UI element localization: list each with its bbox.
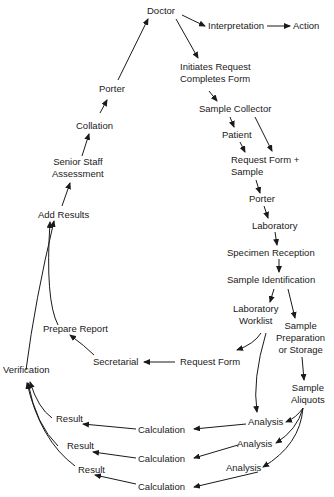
node-initiates-request: Initiates Request Completes Form [180, 61, 251, 85]
node-result-1: Result [56, 413, 83, 425]
node-ssa-line1: Senior Staff [52, 156, 104, 168]
node-lw-line2: Worklist [233, 315, 278, 327]
node-laboratory-worklist: Laboratory Worklist [233, 303, 278, 327]
node-calculation-2: Calculation [138, 453, 185, 465]
node-rfs-line1: Request Form + [231, 154, 299, 166]
node-initiates-line1: Initiates Request [180, 61, 251, 73]
node-ssa-line2: Assessment [52, 168, 104, 180]
node-verification: Verification [3, 364, 49, 376]
node-calculation-1: Calculation [138, 424, 185, 436]
node-porter-right: Porter [249, 193, 275, 205]
node-interpretation: Interpretation [208, 20, 264, 32]
node-sample-identification: Sample Identification [227, 274, 315, 286]
node-initiates-line2: Completes Form [180, 73, 251, 85]
node-prepare-report: Prepare Report [43, 323, 108, 335]
node-sp-line3: or Storage [276, 344, 325, 356]
node-specimen-reception: Specimen Reception [227, 247, 315, 259]
node-sp-line2: Preparation [276, 332, 325, 344]
node-collation: Collation [76, 120, 113, 132]
node-senior-staff-assessment: Senior Staff Assessment [52, 156, 104, 180]
node-sample-preparation: Sample Preparation or Storage [276, 320, 325, 356]
node-request-form: Request Form [180, 356, 240, 368]
node-patient: Patient [222, 129, 252, 141]
node-porter-left: Porter [99, 83, 125, 95]
node-request-form-sample: Request Form + Sample [231, 154, 299, 178]
node-action: Action [293, 20, 319, 32]
node-analysis-3: Analysis [226, 462, 261, 474]
node-result-2: Result [67, 440, 94, 452]
node-analysis-2: Analysis [237, 438, 272, 450]
node-rfs-line2: Sample [231, 166, 299, 178]
node-result-3: Result [78, 464, 105, 476]
node-sa-line2: Aliquots [291, 394, 325, 406]
node-sa-line1: Sample [291, 382, 325, 394]
node-sample-aliquots: Sample Aliquots [291, 382, 325, 406]
node-analysis-1: Analysis [248, 416, 283, 428]
node-secretarial: Secretarial [93, 356, 138, 368]
node-sp-line1: Sample [276, 320, 325, 332]
node-sample-collector: Sample Collector [199, 103, 271, 115]
node-lw-line1: Laboratory [233, 303, 278, 315]
node-calculation-3: Calculation [138, 481, 185, 493]
node-laboratory: Laboratory [252, 220, 297, 232]
node-add-results: Add Results [38, 209, 89, 221]
node-doctor: Doctor [147, 5, 175, 17]
